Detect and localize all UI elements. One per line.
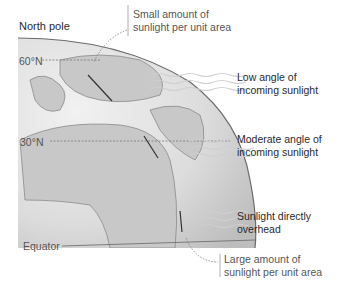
label-direct-1: Sunlight directly [237, 210, 311, 222]
label-low-angle-1: Low angle of [237, 71, 297, 83]
label-large-amount-2: sunlight per unit area [224, 266, 322, 278]
label-low-angle-2: incoming sunlight [237, 84, 318, 96]
label-moderate-angle-1: Moderate angle of [237, 133, 322, 145]
label-direct-2: overhead [237, 223, 281, 235]
label-north-pole: North pole [19, 20, 70, 32]
label-small-amount-1: Small amount of [133, 8, 209, 20]
label-lat-60: 60°N [19, 55, 42, 67]
label-equator: Equator [23, 240, 60, 252]
label-lat-30: 30°N [20, 136, 43, 148]
label-moderate-angle-2: incoming sunlight [237, 146, 318, 158]
label-large-amount-1: Large amount of [224, 253, 300, 265]
label-small-amount-2: sunlight per unit area [133, 21, 231, 33]
